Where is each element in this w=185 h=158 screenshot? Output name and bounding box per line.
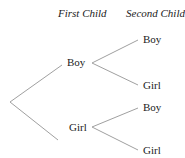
branch-root-to-boy — [10, 65, 62, 102]
branch-girl-to-girl — [92, 127, 138, 150]
header-first-child: First Child — [58, 7, 107, 19]
node-first-girl: Girl — [69, 121, 87, 133]
tree-diagram: First Child Second Child Boy Girl Boy Gi… — [0, 0, 185, 158]
node-boy-girl: Girl — [143, 79, 161, 91]
branch-girl-to-boy — [92, 108, 138, 127]
node-girl-boy: Boy — [143, 101, 161, 113]
branch-root-to-girl — [10, 102, 58, 140]
node-girl-girl: Girl — [143, 144, 161, 156]
header-second-child: Second Child — [126, 7, 185, 19]
branch-boy-to-boy — [92, 40, 138, 63]
node-boy-boy: Boy — [143, 33, 161, 45]
branch-boy-to-girl — [92, 63, 138, 85]
node-first-boy: Boy — [67, 56, 85, 68]
